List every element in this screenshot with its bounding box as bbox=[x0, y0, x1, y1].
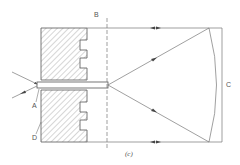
arrowhead-diverging-upper-icon bbox=[151, 58, 157, 62]
leader-A bbox=[36, 89, 39, 102]
arrowhead-lower-left-icon bbox=[20, 91, 26, 95]
label-D: D bbox=[32, 134, 37, 141]
label-B: B bbox=[94, 11, 99, 18]
label-A: A bbox=[32, 102, 37, 109]
label-C: C bbox=[226, 81, 231, 88]
incident-ray-upper-left bbox=[12, 72, 37, 84]
leader-D bbox=[36, 122, 41, 134]
arrowhead-top-right-icon bbox=[156, 27, 161, 30]
arrowhead-bottom-left-icon bbox=[150, 141, 155, 144]
upper-hatched-block bbox=[41, 28, 87, 80]
arrowhead-top-left-icon bbox=[150, 27, 155, 30]
diverging-ray-lower bbox=[108, 85, 209, 142]
figure-caption: (c) bbox=[125, 151, 133, 158]
diverging-ray-upper bbox=[108, 28, 209, 85]
curved-surface-arc bbox=[209, 28, 217, 142]
central-slab bbox=[37, 82, 108, 88]
arrowhead-bottom-right-icon bbox=[156, 141, 161, 144]
lower-hatched-block bbox=[41, 90, 87, 142]
arrowhead-diverging-lower-icon bbox=[151, 109, 157, 113]
